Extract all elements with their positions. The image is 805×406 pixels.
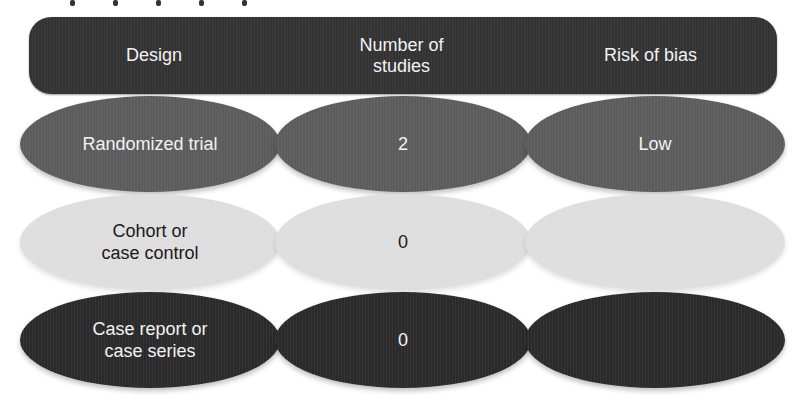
header-bar: Design Number of studies Risk of bias xyxy=(29,17,777,94)
table-row-randomized-trial: Randomized trial 2 Low xyxy=(0,96,805,194)
table-row-case-report-series: Case report or case series 0 xyxy=(0,292,805,390)
header-design: Design xyxy=(29,17,279,94)
cell-risk-of-bias: Low xyxy=(525,96,785,192)
clipped-caption-text xyxy=(70,0,370,6)
cell-design: Case report or case series xyxy=(20,292,280,388)
cell-number-of-studies: 0 xyxy=(275,194,531,290)
cell-risk-of-bias xyxy=(525,194,785,290)
cell-risk-of-bias xyxy=(525,292,785,388)
cell-design: Randomized trial xyxy=(20,96,280,192)
header-number-of-studies: Number of studies xyxy=(279,17,524,94)
cell-design: Cohort or case control xyxy=(20,194,280,290)
cell-number-of-studies: 2 xyxy=(275,96,531,192)
table-row-cohort-case-control: Cohort or case control 0 xyxy=(0,194,805,292)
cell-number-of-studies: 0 xyxy=(275,292,531,388)
header-risk-of-bias: Risk of bias xyxy=(524,17,777,94)
